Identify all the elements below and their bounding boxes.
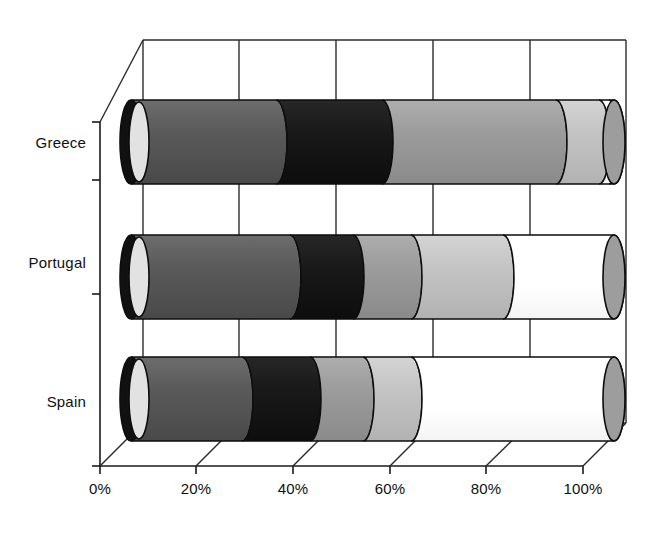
- bar-spain-right-cap: [603, 357, 625, 441]
- bar-portugal-right-cap: [603, 235, 625, 319]
- bar-greece-segment-2: [276, 100, 393, 184]
- bar-greece[interactable]: [120, 100, 625, 184]
- bar-portugal-segment-1: [131, 235, 301, 319]
- x-tick-label-40: 40%: [278, 480, 309, 497]
- bar-greece-left-cap-inner: [129, 102, 149, 182]
- x-tick-label-80: 80%: [471, 480, 502, 497]
- bar-spain-left-cap-inner: [129, 359, 149, 439]
- bar-greece-segment-3: [382, 100, 567, 184]
- bar-portugal-segment-2: [290, 235, 364, 319]
- chart-canvas: [0, 0, 648, 533]
- bar-portugal-left-cap-inner: [129, 237, 149, 317]
- bar-portugal[interactable]: [120, 235, 625, 319]
- bar-greece-segment-1: [131, 100, 287, 184]
- x-tick-label-100: 100%: [563, 480, 602, 497]
- bar-spain-segment-2: [242, 357, 321, 441]
- y-category-label-portugal: Portugal: [0, 254, 86, 271]
- x-tick-label-20: 20%: [181, 480, 212, 497]
- bar-spain-segment-5: [411, 357, 625, 441]
- x-tick-label-0: 0%: [89, 480, 111, 497]
- bar-portugal-segment-3: [353, 235, 422, 319]
- x-tick-label-60: 60%: [375, 480, 406, 497]
- bar-portugal-segment-4: [411, 235, 514, 319]
- bar-spain[interactable]: [120, 357, 625, 441]
- bar-greece-right-cap: [603, 100, 625, 184]
- stacked-cylinder-chart: 0% 20% 40% 60% 80% 100% Greece Portugal …: [0, 0, 648, 533]
- y-category-label-greece: Greece: [0, 134, 86, 151]
- y-category-label-spain: Spain: [0, 393, 86, 410]
